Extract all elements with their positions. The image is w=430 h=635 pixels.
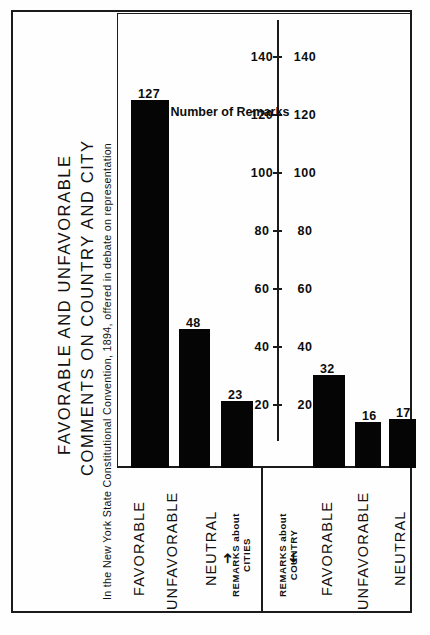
axis-label-100-outer: 100	[293, 166, 317, 180]
bar-cities-unfavorable	[179, 329, 210, 468]
axis-label-120-outer: 120	[293, 108, 317, 122]
group-arrow-cities: ➜	[220, 552, 234, 564]
axis-label-140-outer: 140	[293, 50, 317, 64]
bar-cities-favorable	[131, 100, 169, 468]
bar-country-unfavorable	[355, 422, 381, 468]
axis-label-80-outer: 80	[296, 224, 314, 238]
figure-root: FAVORABLE AND UNFAVORABLE COMMENTS ON CO…	[0, 0, 430, 635]
bar-value-country-neutral: 17	[396, 406, 411, 420]
axis-label-140-inner: 140	[250, 50, 274, 64]
axis-label-100-inner: 100	[250, 166, 274, 180]
category-label-cities-favorable: FAVORABLE	[131, 501, 147, 596]
axis-label-40-outer: 40	[296, 340, 314, 354]
axis-tick-80	[273, 230, 282, 232]
category-label-country-unfavorable: UNFAVORABLE	[355, 492, 371, 610]
axis-label-20-outer: 20	[296, 398, 314, 412]
chart-title-line-2: COMMENTS ON COUNTRY AND CITY	[78, 139, 97, 476]
bar-value-cities-unfavorable: 48	[186, 316, 201, 330]
axis-tick-100	[273, 172, 282, 174]
category-label-country-favorable: FAVORABLE	[319, 501, 335, 596]
category-label-country-neutral: NEUTRAL	[392, 511, 408, 586]
bar-country-neutral	[389, 419, 416, 468]
bar-value-country-unfavorable: 16	[362, 409, 377, 423]
group-label-cities-line2: CITIES	[241, 538, 252, 572]
bar-country-favorable	[313, 375, 345, 468]
plot-canvas: 20 40 60 80 100 120 140 20 40 60 80 100 …	[117, 13, 412, 468]
bar-value-country-favorable: 32	[320, 362, 335, 376]
axis-title: Number of Remarks	[170, 105, 290, 119]
axis-tick-20	[273, 404, 282, 406]
bar-value-cities-neutral: 23	[228, 388, 243, 402]
axis-label-60-outer: 60	[296, 282, 314, 296]
axis-label-60-inner: 60	[253, 282, 271, 296]
axis-tick-40	[273, 346, 282, 348]
chart-subtitle: In the New York State Constitutional Con…	[101, 143, 113, 600]
category-label-strip: FAVORABLE UNFAVORABLE NEUTRAL REMARKS ab…	[117, 468, 412, 613]
group-divider	[261, 468, 263, 613]
group-arrow-country: ➜	[287, 552, 301, 564]
axis-tick-140	[273, 56, 282, 58]
axis-tick-60	[273, 288, 282, 290]
bar-value-cities-favorable: 127	[138, 87, 160, 101]
axis-label-80-inner: 80	[253, 224, 271, 238]
bar-cities-neutral	[221, 401, 253, 468]
category-label-cities-neutral: NEUTRAL	[203, 511, 219, 586]
axis-label-40-inner: 40	[253, 340, 271, 354]
axis-label-20-inner: 20	[253, 398, 271, 412]
chart-title-line-1: FAVORABLE AND UNFAVORABLE	[55, 154, 74, 455]
category-label-cities-unfavorable: UNFAVORABLE	[164, 492, 180, 610]
